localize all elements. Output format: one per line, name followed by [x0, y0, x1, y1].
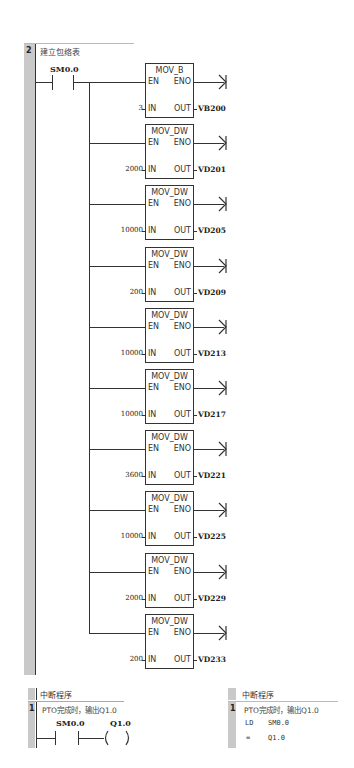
out-tick: [194, 293, 197, 294]
in-value[interactable]: 200: [130, 288, 143, 296]
out-value[interactable]: VD213: [198, 349, 226, 358]
in-tick: [142, 170, 145, 171]
stl-op[interactable]: LD: [245, 719, 253, 727]
pin-in: IN: [148, 594, 156, 603]
eno-arrow-icon: [218, 74, 228, 90]
mov-block[interactable]: MOV_DW EN ENO IN OUT: [145, 124, 194, 179]
mov-block[interactable]: MOV_DW EN ENO IN OUT: [145, 369, 194, 424]
stl-op[interactable]: =: [246, 734, 250, 742]
rung-wire: [73, 82, 145, 83]
pin-out: OUT: [174, 410, 191, 419]
pin-in: IN: [148, 349, 156, 358]
stl-operand[interactable]: SM0.0: [268, 719, 289, 727]
network-gutter: [24, 43, 35, 675]
block-title: MOV_DW: [146, 372, 193, 381]
pin-eno: ENO: [174, 444, 191, 453]
in-value[interactable]: 3600: [125, 471, 143, 479]
mov-block[interactable]: MOV_DW EN ENO IN OUT: [145, 491, 194, 546]
mov-block[interactable]: MOV_DW EN ENO IN OUT: [145, 185, 194, 240]
in-value[interactable]: 200: [130, 655, 143, 663]
pin-en: EN: [148, 567, 159, 576]
pin-out: OUT: [174, 104, 191, 113]
header-rail: [36, 688, 37, 700]
pin-en: EN: [148, 261, 159, 270]
pin-eno: ENO: [174, 505, 191, 514]
out-value[interactable]: VD205: [198, 226, 226, 235]
out-value[interactable]: VD233: [198, 655, 226, 664]
out-tick: [194, 537, 197, 538]
header-gutter: [228, 688, 236, 700]
network-comment[interactable]: PTO完成时，输出Q1.0: [244, 704, 319, 715]
in-value[interactable]: 2000: [125, 165, 143, 173]
power-rail: [36, 702, 37, 748]
contact-label: SM0.0: [56, 718, 85, 728]
rung-wire: [78, 738, 104, 739]
out-value[interactable]: VD201: [198, 165, 226, 174]
eno-arrow-icon: [218, 380, 228, 396]
eno-arrow-icon: [218, 196, 228, 212]
pin-out: OUT: [174, 471, 191, 480]
mov-block[interactable]: MOV_B EN ENO IN OUT: [145, 63, 194, 118]
mov-block[interactable]: MOV_DW EN ENO IN OUT: [145, 430, 194, 485]
stl-operand[interactable]: Q1.0: [268, 734, 285, 742]
pin-in: IN: [148, 288, 156, 297]
in-tick: [142, 537, 145, 538]
in-value[interactable]: 3: [139, 104, 143, 112]
in-value[interactable]: 10000: [121, 349, 143, 357]
out-tick: [194, 354, 197, 355]
branch-wire: [89, 327, 145, 328]
mov-block[interactable]: MOV_DW EN ENO IN OUT: [145, 614, 194, 669]
interrupt-header: 中断程序: [242, 689, 274, 700]
pin-en: EN: [148, 628, 159, 637]
mov-block[interactable]: MOV_DW EN ENO IN OUT: [145, 247, 194, 302]
out-value[interactable]: VD229: [198, 594, 226, 603]
eno-arrow-icon: [218, 564, 228, 580]
contact-no-left[interactable]: [52, 75, 53, 90]
network-comment[interactable]: 建立包络表: [40, 46, 80, 57]
out-value[interactable]: VD221: [198, 471, 226, 480]
block-title: MOV_DW: [146, 311, 193, 320]
pin-en: EN: [148, 444, 159, 453]
power-rail: [35, 43, 36, 675]
block-title: MOV_DW: [146, 617, 193, 626]
header-divider: [28, 701, 124, 702]
in-tick: [142, 476, 145, 477]
pin-eno: ENO: [174, 138, 191, 147]
in-value[interactable]: 10000: [121, 532, 143, 540]
in-value[interactable]: 10000: [121, 226, 143, 234]
mov-block[interactable]: MOV_DW EN ENO IN OUT: [145, 553, 194, 608]
contact-no-left[interactable]: [55, 731, 56, 745]
out-tick: [194, 476, 197, 477]
out-value[interactable]: VD209: [198, 288, 226, 297]
eno-arrow-icon: [218, 319, 228, 335]
in-tick: [142, 109, 145, 110]
pin-en: EN: [148, 505, 159, 514]
pin-eno: ENO: [174, 199, 191, 208]
pin-en: EN: [148, 138, 159, 147]
in-tick: [142, 660, 145, 661]
out-tick: [194, 231, 197, 232]
coil-icon[interactable]: [102, 730, 132, 746]
pin-in: IN: [148, 165, 156, 174]
network-top-border: [24, 43, 134, 44]
out-tick: [194, 415, 197, 416]
in-value[interactable]: 10000: [121, 410, 143, 418]
network-comment[interactable]: PTO完成时，输出Q1.0: [42, 704, 117, 715]
in-tick: [142, 354, 145, 355]
eno-arrow-icon: [218, 502, 228, 518]
pin-eno: ENO: [174, 322, 191, 331]
pin-out: OUT: [174, 226, 191, 235]
out-value[interactable]: VB200: [198, 104, 226, 113]
out-tick: [194, 599, 197, 600]
pin-eno: ENO: [174, 567, 191, 576]
mov-block[interactable]: MOV_DW EN ENO IN OUT: [145, 308, 194, 363]
block-title: MOV_DW: [146, 188, 193, 197]
pin-eno: ENO: [174, 261, 191, 270]
pin-eno: ENO: [174, 383, 191, 392]
branch-wire: [89, 633, 145, 634]
header-gutter: [28, 688, 35, 700]
pin-out: OUT: [174, 288, 191, 297]
in-value[interactable]: 2000: [125, 594, 143, 602]
out-value[interactable]: VD217: [198, 410, 226, 419]
out-value[interactable]: VD225: [198, 532, 226, 541]
